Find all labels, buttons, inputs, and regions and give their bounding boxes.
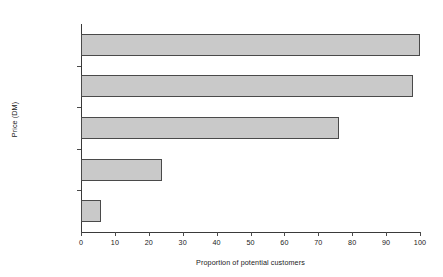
x-axis-tick xyxy=(420,232,421,236)
bar-4 xyxy=(81,159,162,181)
bar-2 xyxy=(81,75,413,97)
x-axis-tick xyxy=(318,232,319,236)
x-axis-tick xyxy=(251,232,252,236)
bar-3 xyxy=(81,117,339,139)
y-axis-tick xyxy=(77,107,81,108)
x-axis-tick xyxy=(81,232,82,236)
plot-area xyxy=(81,24,420,232)
x-axis-tick xyxy=(217,232,218,236)
y-axis-tick xyxy=(77,190,81,191)
y-axis-tick xyxy=(77,149,81,150)
x-axis-tick xyxy=(115,232,116,236)
x-axis-tick xyxy=(284,232,285,236)
bar-chart: Price (DM) 0–2,5002,000–2,5002,500–3,000… xyxy=(0,0,443,277)
x-axis-tick-label: 100 xyxy=(400,238,440,247)
bar-5 xyxy=(81,200,101,222)
x-axis-tick xyxy=(386,232,387,236)
x-axis-tick xyxy=(183,232,184,236)
x-axis-title: Proportion of potential customers xyxy=(81,258,420,267)
bar-1 xyxy=(81,34,420,56)
y-axis-tick xyxy=(77,66,81,67)
x-axis-tick xyxy=(352,232,353,236)
y-axis-title: Price (DM) xyxy=(10,80,19,160)
x-axis-tick xyxy=(149,232,150,236)
